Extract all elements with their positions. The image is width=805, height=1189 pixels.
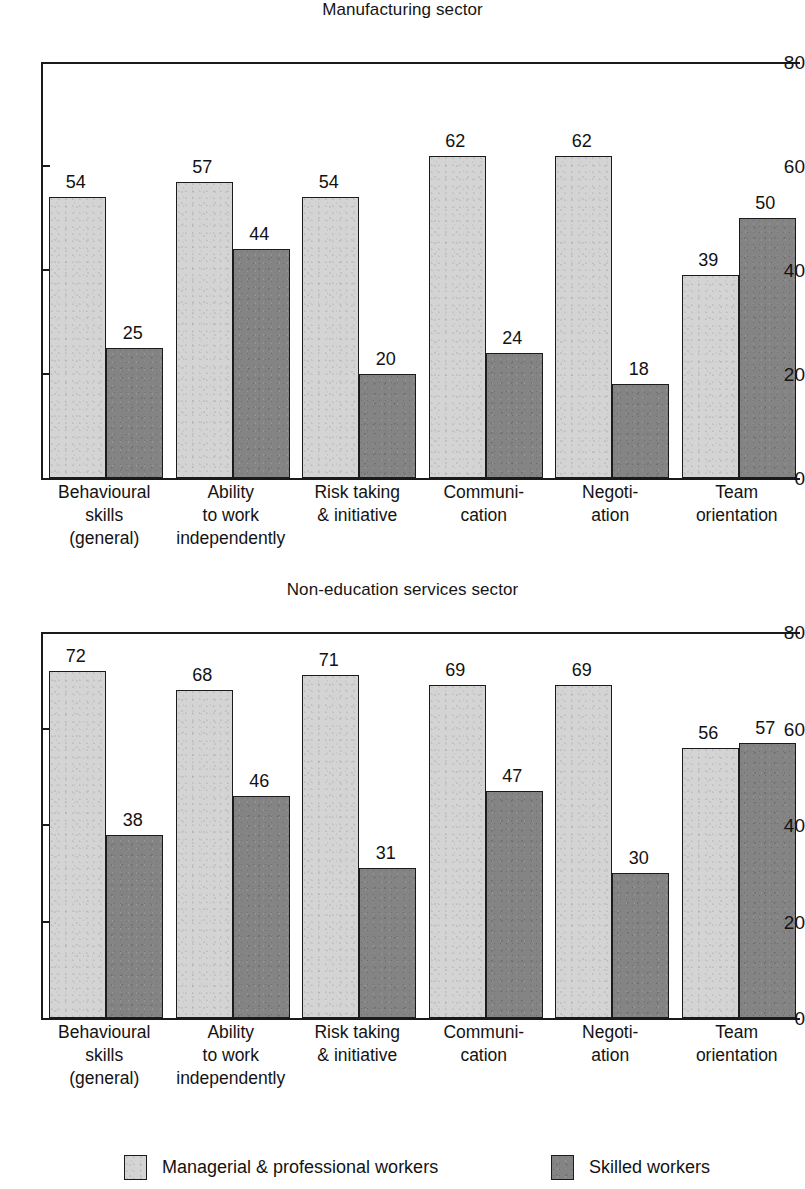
- bar: [612, 384, 669, 478]
- bar: [682, 748, 739, 1018]
- bar: [106, 835, 163, 1018]
- bar-value-label: 25: [96, 324, 169, 342]
- y-axis-tick-label: 20: [771, 365, 805, 384]
- bar-value-label: 47: [476, 767, 549, 785]
- x-axis-line-manufacturing: [41, 478, 800, 480]
- x-axis-line-services: [41, 1018, 800, 1020]
- bar-value-label: 44: [223, 225, 296, 243]
- y-axis-tick-mark: [41, 824, 50, 826]
- legend-label-skilled: Skilled workers: [589, 1157, 710, 1178]
- y-axis-tick-label: 20: [771, 912, 805, 931]
- bar: [739, 218, 796, 478]
- y-axis-tick-label: 40: [771, 261, 805, 280]
- y-axis-tick-mark: [41, 728, 50, 730]
- bar: [429, 685, 486, 1018]
- bar: [359, 868, 416, 1018]
- bar: [106, 348, 163, 478]
- plot-area-manufacturing: [41, 62, 800, 478]
- bar: [612, 873, 669, 1018]
- bar-value-label: 68: [166, 666, 239, 684]
- bar-value-label: 71: [292, 651, 365, 669]
- bar-value-label: 38: [96, 811, 169, 829]
- chart-panel-manufacturing: Manufacturing sector 020406080 Behaviour…: [0, 0, 805, 580]
- y-axis-tick-mark: [41, 165, 50, 167]
- bar-value-label: 57: [166, 158, 239, 176]
- chart-title-manufacturing: Manufacturing sector: [0, 0, 805, 20]
- legend-swatch-managerial-icon: [124, 1155, 147, 1180]
- bar: [682, 275, 739, 478]
- bar: [302, 197, 359, 478]
- chart-panel-services: Non-education services sector 020406080 …: [0, 580, 805, 1040]
- bar: [739, 743, 796, 1018]
- bar: [233, 796, 290, 1018]
- bar-value-label: 20: [349, 350, 422, 368]
- legend-swatch-skilled-icon: [551, 1155, 574, 1180]
- bar-value-label: 39: [672, 251, 745, 269]
- bars-container-manufacturing: [43, 64, 800, 478]
- y-axis-tick-label: 80: [771, 53, 805, 72]
- bar-value-label: 69: [419, 661, 492, 679]
- legend-item-skilled: Skilled workers: [551, 1150, 710, 1184]
- bar-value-label: 46: [223, 772, 296, 790]
- bar-value-label: 54: [292, 173, 365, 191]
- bar: [359, 374, 416, 478]
- bar-value-label: 31: [349, 844, 422, 862]
- bar: [555, 156, 612, 478]
- bar-value-label: 54: [39, 173, 112, 191]
- figure-two-bar-charts: Manufacturing sector 020406080 Behaviour…: [0, 0, 805, 1189]
- bar-value-label: 69: [545, 661, 618, 679]
- bar-value-label: 18: [602, 360, 675, 378]
- bar: [486, 353, 543, 478]
- y-axis-tick-mark: [41, 269, 50, 271]
- bar: [486, 791, 543, 1018]
- x-axis-category-label: Team orientation: [660, 1021, 805, 1067]
- bar: [176, 690, 233, 1018]
- legend-item-managerial: Managerial & professional workers: [124, 1150, 438, 1184]
- y-axis-tick-mark: [41, 921, 50, 923]
- bar-value-label: 24: [476, 329, 549, 347]
- bar-value-label: 30: [602, 849, 675, 867]
- y-axis-tick-label: 60: [771, 157, 805, 176]
- bar: [429, 156, 486, 478]
- bar-value-label: 57: [729, 719, 802, 737]
- legend: Managerial & professional workers Skille…: [0, 1150, 805, 1189]
- bar-value-label: 50: [729, 194, 802, 212]
- bar-value-label: 72: [39, 647, 112, 665]
- chart-title-services: Non-education services sector: [0, 580, 805, 600]
- y-axis-tick-label: 80: [771, 623, 805, 642]
- bar-value-label: 62: [545, 132, 618, 150]
- bar-value-label: 62: [419, 132, 492, 150]
- bar: [49, 671, 106, 1018]
- y-axis-tick-label: 40: [771, 816, 805, 835]
- legend-label-managerial: Managerial & professional workers: [162, 1157, 438, 1178]
- y-axis-tick-mark: [41, 373, 50, 375]
- x-axis-category-label: Team orientation: [660, 481, 805, 527]
- bar: [233, 249, 290, 478]
